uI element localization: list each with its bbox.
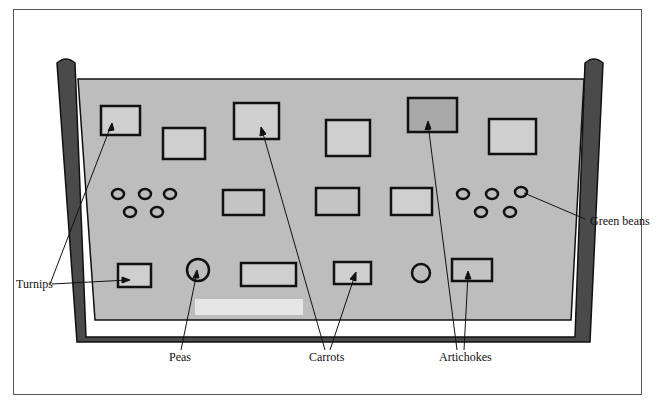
label-peas: Peas — [169, 350, 191, 365]
label-artichokes: Artichokes — [439, 350, 492, 365]
label-green-beans: Green beans — [590, 214, 650, 229]
carrot-bottom — [334, 262, 371, 284]
middle-row-items — [223, 188, 432, 215]
turnip-top — [101, 106, 140, 135]
artichoke-top — [408, 98, 457, 132]
label-carrots: Carrots — [309, 350, 344, 365]
artichoke-bottom — [452, 259, 492, 281]
turnip-bottom — [118, 264, 151, 287]
carrot-top — [234, 103, 279, 139]
label-turnips: Turnips — [16, 277, 53, 292]
